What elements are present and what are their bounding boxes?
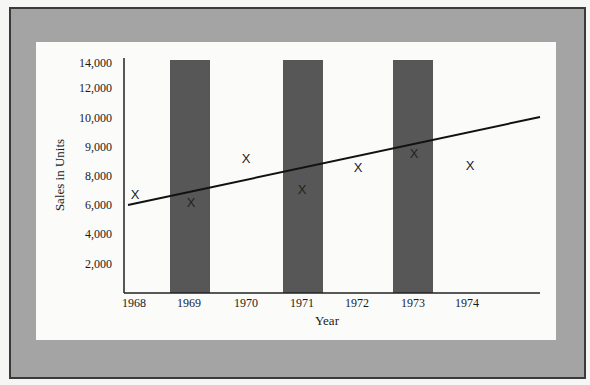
x-tick-label: 1974	[455, 296, 479, 310]
bar-1973	[393, 60, 433, 293]
x-marker: X	[131, 187, 140, 202]
x-tick-label: 1969	[177, 296, 201, 310]
x-tick-label: 1971	[290, 296, 314, 310]
x-marker: X	[354, 160, 363, 175]
y-tick-label: 9,000	[85, 140, 112, 154]
y-tick-label: 6,000	[85, 198, 112, 212]
x-tick-label: 1968	[122, 296, 146, 310]
y-tick-label: 12,000	[79, 81, 112, 95]
y-tick-labels: 14,00012,00010,0009,0008,0006,0004,0002,…	[79, 56, 112, 271]
x-tick-label: 1970	[234, 296, 258, 310]
chart: 14,00012,00010,0009,0008,0006,0004,0002,…	[0, 0, 590, 385]
y-tick-label: 8,000	[85, 169, 112, 183]
x-marker: X	[187, 195, 196, 210]
y-tick-label: 14,000	[79, 56, 112, 70]
x-tick-labels: 1968196919701971197219731974	[122, 296, 479, 310]
y-tick-label: 10,000	[79, 111, 112, 125]
y-axis-title: Sales in Units	[52, 139, 67, 211]
x-tick-label: 1973	[401, 296, 425, 310]
bar-1969	[170, 60, 210, 293]
x-marker: X	[410, 146, 419, 161]
bar-1971	[283, 60, 323, 293]
x-tick-label: 1972	[345, 296, 369, 310]
y-tick-label: 2,000	[85, 257, 112, 271]
x-marker: X	[298, 182, 307, 197]
x-axis-title: Year	[315, 313, 340, 328]
x-marker: X	[466, 158, 475, 173]
x-marker: X	[242, 151, 251, 166]
y-tick-label: 4,000	[85, 227, 112, 241]
